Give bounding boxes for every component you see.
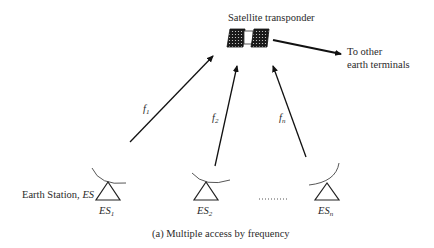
station-label-es2: ES2: [197, 205, 212, 217]
earth-station-n: [309, 163, 339, 200]
earth-station-2: [192, 173, 230, 200]
station-label-es1: ES1: [99, 205, 114, 217]
outbound-arrow: [273, 40, 341, 54]
outbound-label-line2: earth terminals: [347, 59, 410, 71]
earth-station-caption: Earth Station, ES: [22, 189, 94, 201]
station-label-esn-text: ES: [318, 205, 330, 216]
station-label-es1-sub: 1: [111, 210, 115, 218]
outbound-label-line1: To other: [347, 46, 382, 58]
station-label-esn-sub: n: [330, 210, 334, 218]
satellite-icon: [227, 29, 269, 47]
earth-station-1: [92, 168, 126, 200]
station-label-es1-text: ES: [99, 205, 111, 216]
uplink-arrow-fn: [273, 66, 306, 157]
figure-caption: (a) Multiple access by frequency: [152, 228, 290, 240]
station-label-esn: ESn: [318, 205, 333, 217]
earth-station-caption-italic: ES: [82, 189, 94, 200]
uplink-label-f1: f1: [143, 103, 149, 115]
uplink-label-f2: f2: [212, 112, 218, 124]
uplink-label-fn: fn: [279, 112, 285, 124]
satellite-label: Satellite transponder: [228, 12, 315, 24]
station-label-es2-sub: 2: [209, 210, 213, 218]
uplink-label-f2-sub: 2: [215, 117, 219, 125]
uplink-label-fn-sub: n: [282, 117, 286, 125]
earth-station-caption-text: Earth Station,: [22, 189, 82, 200]
uplink-label-f1-sub: 1: [146, 108, 150, 116]
uplink-arrow-f1: [130, 56, 213, 142]
station-label-es2-text: ES: [197, 205, 209, 216]
